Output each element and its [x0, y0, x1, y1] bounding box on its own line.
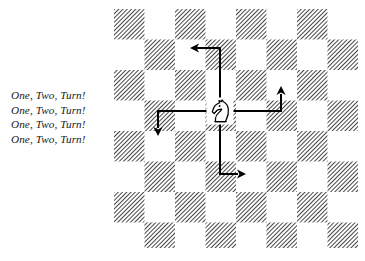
white-knight-piece — [205, 96, 235, 126]
move-right-up-arrowhead — [276, 86, 285, 95]
knight-move-arrows — [0, 0, 365, 261]
move-left-down-arrowhead — [153, 127, 162, 136]
figure-canvas: One, Two, Turn! One, Two, Turn! One, Two… — [0, 0, 365, 261]
knight-eye — [219, 105, 221, 107]
move-down-right-arrowhead — [237, 169, 246, 178]
